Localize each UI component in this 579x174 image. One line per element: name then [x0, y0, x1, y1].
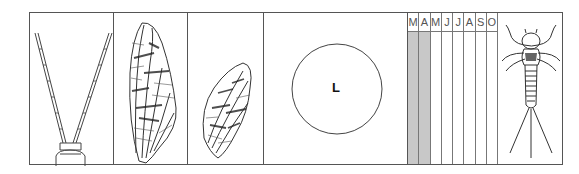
forewing-illustration — [114, 13, 188, 166]
identification-chart: L M A M J J A S O — [29, 12, 563, 165]
month-column: A — [464, 13, 475, 164]
month-label: M — [431, 13, 441, 32]
month-column: M — [431, 13, 442, 164]
month-label: J — [442, 13, 452, 32]
month-column: O — [487, 13, 498, 164]
month-column: J — [442, 13, 453, 164]
nymph-illustration — [498, 13, 564, 166]
shaded-cell — [408, 32, 418, 164]
size-panel: L — [264, 13, 408, 164]
month-column: S — [476, 13, 487, 164]
month-column: A — [419, 13, 430, 164]
tails-panel — [30, 13, 114, 164]
month-label: A — [464, 13, 474, 32]
month-column: J — [453, 13, 464, 164]
month-label: J — [453, 13, 463, 32]
tails-illustration — [30, 13, 114, 166]
month-label: O — [487, 13, 497, 32]
nymph-panel — [498, 13, 564, 164]
month-label: A — [419, 13, 429, 32]
hindwing-panel — [188, 13, 264, 164]
month-column: M — [408, 13, 419, 164]
month-label: M — [408, 13, 418, 32]
shaded-cell — [419, 32, 429, 164]
month-label: S — [476, 13, 486, 32]
forewing-panel — [114, 13, 188, 164]
hindwing-illustration — [188, 13, 264, 166]
size-label: L — [332, 80, 340, 95]
season-calendar: M A M J J A S O — [408, 13, 498, 164]
